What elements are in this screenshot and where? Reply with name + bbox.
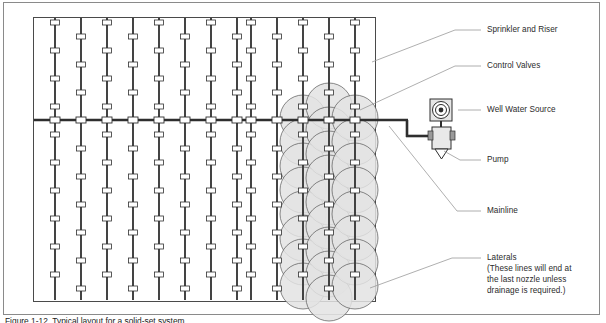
sprinkler-riser: [77, 230, 86, 235]
label-well-water-source: Well Water Source: [487, 105, 556, 116]
sprinkler-riser: [273, 174, 282, 179]
laterals-note-line-2: the last nozzle unless: [487, 275, 566, 286]
control-valve: [154, 117, 164, 123]
sprinkler-riser: [181, 90, 190, 95]
sprinkler-riser: [77, 286, 86, 291]
pump-symbol: [428, 127, 455, 159]
sprinkler-riser: [181, 230, 190, 235]
sprinkler-riser: [129, 258, 138, 263]
sprinkler-riser: [299, 132, 308, 137]
sprinkler-riser: [247, 104, 256, 109]
control-valve: [76, 117, 86, 123]
sprinkler-riser: [299, 244, 308, 249]
sprinkler-riser: [351, 160, 360, 165]
sprinkler-riser: [77, 258, 86, 263]
sprinkler-riser: [181, 34, 190, 39]
sprinkler-riser: [103, 216, 112, 221]
control-valve: [180, 117, 190, 123]
sprinkler-riser: [351, 216, 360, 221]
sprinkler-riser: [247, 132, 256, 137]
sprinkler-riser: [351, 272, 360, 277]
sprinkler-riser: [181, 174, 190, 179]
label-laterals: Laterals: [487, 253, 517, 264]
sprinkler-riser: [351, 20, 360, 25]
sprinkler-riser: [155, 104, 164, 109]
sprinkler-riser: [351, 188, 360, 193]
control-valve: [350, 117, 360, 123]
sprinkler-riser: [103, 188, 112, 193]
sprinkler-riser: [77, 146, 86, 151]
sprinkler-riser: [325, 62, 334, 67]
sprinkler-riser: [325, 90, 334, 95]
sprinkler-riser: [351, 132, 360, 137]
sprinkler-riser: [299, 272, 308, 277]
sprinkler-riser: [129, 62, 138, 67]
sprinkler-riser: [129, 174, 138, 179]
sprinkler-riser: [233, 146, 242, 151]
control-valve: [102, 117, 112, 123]
sprinkler-riser: [247, 48, 256, 53]
sprinkler-riser: [129, 90, 138, 95]
sprinkler-riser: [325, 202, 334, 207]
sprinkler-riser: [233, 230, 242, 235]
sprinkler-riser: [51, 188, 60, 193]
sprinkler-riser: [181, 286, 190, 291]
sprinkler-riser: [233, 258, 242, 263]
sprinkler-riser: [51, 160, 60, 165]
sprinkler-riser: [155, 160, 164, 165]
figure-page: Sprinkler and Riser Control Valves Well …: [0, 0, 606, 323]
sprinkler-riser: [207, 216, 216, 221]
label-control-valves: Control Valves: [487, 61, 540, 72]
sprinkler-riser: [233, 62, 242, 67]
sprinkler-riser: [77, 34, 86, 39]
control-valve: [50, 117, 60, 123]
sprinkler-riser: [51, 104, 60, 109]
sprinkler-riser: [299, 20, 308, 25]
sprinkler-riser: [325, 174, 334, 179]
leader-pump: [444, 151, 481, 160]
label-leader-lines: [360, 30, 481, 288]
sprinkler-riser: [351, 76, 360, 81]
laterals-note-line-3: drainage is required.): [487, 286, 565, 297]
sprinkler-riser: [77, 202, 86, 207]
sprinkler-riser: [103, 132, 112, 137]
sprinkler-riser: [155, 76, 164, 81]
leader-sprinkler: [372, 30, 481, 62]
sprinkler-riser: [247, 244, 256, 249]
sprinkler-riser: [207, 48, 216, 53]
sprinkler-riser: [207, 272, 216, 277]
sprinkler-riser: [299, 160, 308, 165]
sprinkler-riser: [273, 62, 282, 67]
sprinkler-riser: [207, 188, 216, 193]
sprinkler-riser: [77, 90, 86, 95]
control-valve: [128, 117, 138, 123]
sprinkler-riser: [129, 146, 138, 151]
control-valve: [298, 117, 308, 123]
sprinkler-riser: [233, 90, 242, 95]
sprinkler-riser: [247, 160, 256, 165]
sprinkler-riser: [233, 34, 242, 39]
sprinkler-riser: [103, 160, 112, 165]
sprinkler-riser: [325, 146, 334, 151]
label-sprinkler-and-riser: Sprinkler and Riser: [487, 25, 558, 36]
sprinkler-riser: [299, 48, 308, 53]
sprinkler-riser: [129, 286, 138, 291]
sprinkler-riser: [129, 34, 138, 39]
sprinkler-riser: [155, 244, 164, 249]
sprinkler-riser: [247, 76, 256, 81]
sprinkler-riser: [233, 174, 242, 179]
sprinkler-riser: [155, 48, 164, 53]
sprinkler-riser: [233, 286, 242, 291]
sprinkler-riser: [325, 230, 334, 235]
sprinkler-riser: [247, 188, 256, 193]
leader-laterals: [370, 258, 481, 288]
sprinkler-riser: [247, 216, 256, 221]
sprinkler-riser: [129, 230, 138, 235]
sprinkler-riser: [273, 202, 282, 207]
sprinkler-riser: [325, 34, 334, 39]
sprinkler-riser: [273, 230, 282, 235]
sprinkler-riser: [207, 104, 216, 109]
sprinkler-riser: [51, 272, 60, 277]
sprinkler-riser: [325, 258, 334, 263]
sprinkler-riser: [299, 76, 308, 81]
